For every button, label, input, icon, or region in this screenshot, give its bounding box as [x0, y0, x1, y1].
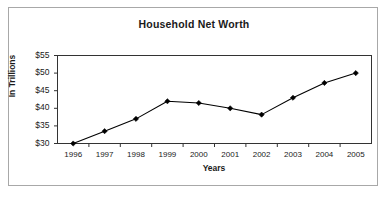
y-axis-ticks: [54, 56, 58, 144]
x-axis-tick-label: 1998: [119, 150, 153, 159]
data-line: [73, 73, 356, 143]
y-axis-tick-label: $30: [16, 139, 50, 148]
x-axis-tick-label: 1997: [88, 150, 122, 159]
y-axis-tick-label: $50: [16, 68, 50, 77]
data-markers: [71, 71, 359, 147]
x-axis-tick-label: 1996: [56, 150, 90, 159]
y-axis-tick-label: $45: [16, 86, 50, 95]
x-axis-tick-label: 2005: [339, 150, 373, 159]
x-axis-tick-label: 1999: [150, 150, 184, 159]
x-axis-tick-label: 2000: [182, 150, 216, 159]
x-axis-tick-label: 2004: [307, 150, 341, 159]
y-axis-tick-label: $40: [16, 103, 50, 112]
x-axis-tick-label: 2001: [213, 150, 247, 159]
y-axis-tick-label: $35: [16, 121, 50, 130]
x-axis-tick-label: 2002: [245, 150, 279, 159]
plot-area: [0, 0, 388, 198]
chart-figure: Household Net Worth In Trillions Years $…: [0, 0, 388, 198]
x-axis-tick-label: 2003: [276, 150, 310, 159]
y-axis-tick-label: $55: [16, 51, 50, 60]
x-axis-ticks: [89, 144, 340, 148]
